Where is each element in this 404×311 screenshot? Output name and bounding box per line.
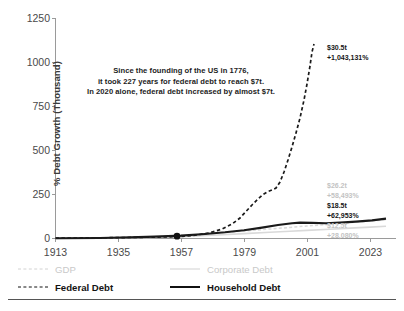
y-tick-label-250: 250	[6, 189, 50, 199]
legend-swatch-federal-debt-icon	[18, 282, 48, 292]
annotation-line-1: Since the founding of the US in 1776,	[64, 66, 298, 77]
legend-item-federal-debt[interactable]: Federal Debt	[18, 280, 113, 294]
endpoint-label-corporate-debt: $12.5t +28,080%	[327, 221, 359, 240]
y-tick-label-1000: 1000	[6, 57, 50, 67]
x-tick-label-2001: 2001	[285, 246, 331, 258]
endpoint-growth-federal-debt: +1,043,131%	[327, 53, 368, 63]
endpoint-label-household-debt: $18.5t +62,953%	[327, 201, 359, 220]
legend-swatch-gdp-icon	[18, 264, 48, 274]
endpoint-value-corporate-debt: $12.5t	[327, 221, 359, 231]
footer-divider	[8, 299, 396, 300]
year-1971-marker-dot	[174, 233, 181, 240]
chart-figure: % Debt Growth (Thousand) 0 250 500 750 1…	[0, 0, 404, 311]
annotation-line-2: it took 227 years for federal debt to re…	[64, 77, 298, 88]
legend-label-household-debt: Household Debt	[207, 282, 281, 293]
legend-swatch-household-debt-icon	[170, 282, 200, 292]
legend-item-corporate-debt[interactable]: Corporate Debt	[170, 262, 273, 276]
legend-label-corporate-debt: Corporate Debt	[207, 264, 273, 275]
endpoint-value-federal-debt: $30.5t	[327, 43, 368, 53]
chart-legend: GDP Corporate Debt Federal Debt Househol…	[0, 262, 404, 298]
annotation-line-3: In 2020 alone, federal debt increased by…	[64, 87, 298, 98]
y-tick-label-1250: 1250	[6, 13, 50, 23]
endpoint-growth-corporate-debt: +28,080%	[327, 231, 359, 241]
y-axis-title: % Debt Growth (Thousand)	[51, 24, 62, 224]
endpoint-label-federal-debt: $30.5t +1,043,131%	[327, 43, 368, 62]
x-tick-label-1979: 1979	[222, 246, 268, 258]
x-tick-label-2023: 2023	[348, 246, 394, 258]
endpoint-label-gdp: $26.2t +58,493%	[327, 181, 359, 200]
legend-item-gdp[interactable]: GDP	[18, 262, 76, 276]
endpoint-growth-gdp: +58,493%	[327, 191, 359, 201]
x-tick-label-1935: 1935	[96, 246, 142, 258]
x-tick-label-1913: 1913	[33, 246, 79, 258]
legend-swatch-corporate-debt-icon	[170, 264, 200, 274]
x-tick-marks	[56, 239, 371, 243]
endpoint-growth-household-debt: +62,953%	[327, 211, 359, 221]
legend-item-household-debt[interactable]: Household Debt	[170, 280, 281, 294]
y-tick-label-750: 750	[6, 101, 50, 111]
y-tick-label-0: 0	[6, 233, 50, 243]
y-tick-label-500: 500	[6, 145, 50, 155]
legend-label-gdp: GDP	[55, 264, 76, 275]
x-tick-label-1957: 1957	[159, 246, 205, 258]
legend-label-federal-debt: Federal Debt	[55, 282, 113, 293]
endpoint-value-gdp: $26.2t	[327, 181, 359, 191]
endpoint-value-household-debt: $18.5t	[327, 201, 359, 211]
chart-annotation-text: Since the founding of the US in 1776, it…	[64, 66, 298, 98]
